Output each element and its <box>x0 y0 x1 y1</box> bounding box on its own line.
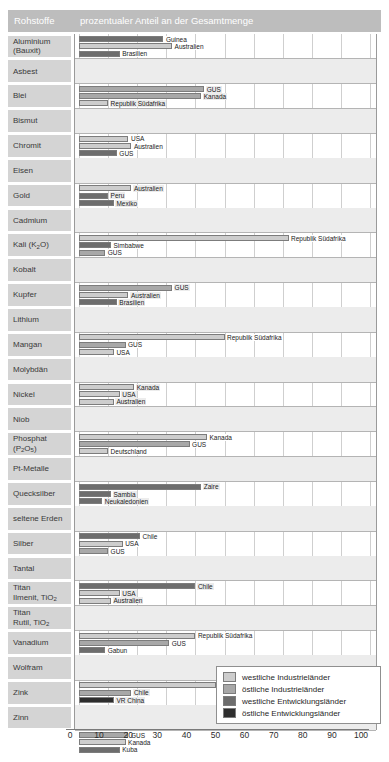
axis-tick: 40 <box>182 730 191 740</box>
material-label: seltene Erden <box>8 508 71 530</box>
chart-row: KanadaUSAAustralien <box>75 208 376 233</box>
material-label-line: Mangan <box>13 340 71 350</box>
material-label-line: Vanadium <box>13 638 71 648</box>
material-label: Gold <box>8 185 71 207</box>
axis-tick: 50 <box>211 730 220 740</box>
chart-page: Rohstoffe prozentualer Anteil an der Ges… <box>0 0 389 762</box>
material-label: Silber <box>8 533 71 555</box>
material-label-line: Asbest <box>13 67 71 77</box>
material-label-line: Tantal <box>13 564 71 574</box>
legend-label: westliche Industrieländer <box>242 673 330 682</box>
plot-area: GuineaAustralienBrasilienGUSKanadaRepubl… <box>74 34 377 730</box>
chart-row: GUSKanadaKuba <box>75 382 376 407</box>
material-label-line: Titan <box>13 608 71 618</box>
chart-row: Republik SüdafrikaGUSUSA <box>75 457 376 482</box>
material-label-line: Bismut <box>13 116 71 126</box>
material-label: Niob <box>8 408 71 430</box>
material-label-line: Pt-Metalle <box>13 464 71 474</box>
material-label: Kali (K2O) <box>8 234 71 256</box>
material-label: Wolfram <box>8 657 71 679</box>
material-label: TitanRutil, TiO2 <box>8 607 71 629</box>
chart-row: AustralienIndienRepublik Südafrika <box>75 606 376 631</box>
chart-row: Republik SüdafrikaGUSGabun <box>75 332 376 357</box>
chart-row: GuineaAustralienBrasilien <box>75 34 376 59</box>
material-label-line: Kali (K2O) <box>13 240 71 251</box>
axis-tick: 30 <box>153 730 162 740</box>
material-label: Zink <box>8 682 71 704</box>
material-label: Vanadium <box>8 632 71 654</box>
material-label-line: Kupfer <box>13 290 71 300</box>
material-label-line: (Bauxit) <box>13 46 71 56</box>
material-label-line: Wolfram <box>13 663 71 673</box>
chart-row: AustralienPeruMexiko <box>75 109 376 134</box>
chart-row: Republik SüdafrikaSimbabweGUS <box>75 133 376 158</box>
material-label: TitanIlmenit, TiO2 <box>8 582 71 604</box>
chart-row: Republik SüdafrikaGUSVR China <box>75 631 376 656</box>
axis-tick: 80 <box>298 730 307 740</box>
material-label-line: Rutil, TiO2 <box>13 618 71 629</box>
material-label: Pt-Metalle <box>8 458 71 480</box>
legend-label: östliche Industrieländer <box>242 685 324 694</box>
axis-tick: 90 <box>327 730 336 740</box>
material-label-line: Nickel <box>13 390 71 400</box>
chart-row: ChileUSAAustralien <box>75 307 376 332</box>
chart-row: GUSAustralienBrasilien <box>75 158 376 183</box>
chart-row: USAAustralienGUS <box>75 84 376 109</box>
legend-item: westliche Industrieländer <box>223 671 380 683</box>
axis-tick: 70 <box>269 730 278 740</box>
axis-tick: 20 <box>123 730 132 740</box>
material-label-line: Phosphat <box>13 434 71 444</box>
material-label-line: Niob <box>13 415 71 425</box>
legend-swatch <box>223 708 236 718</box>
bar <box>79 43 172 49</box>
material-label: Blei <box>8 85 71 107</box>
material-label-line: Zink <box>13 688 71 698</box>
bar <box>79 747 120 753</box>
material-label-line: Zinn <box>13 713 71 723</box>
chart-row: ChileUSAGUS <box>75 283 376 308</box>
bar <box>79 51 120 57</box>
axis-tick: 10 <box>94 730 103 740</box>
chart-row: BrasilienGUSKanada <box>75 407 376 432</box>
material-label-line: Lithium <box>13 315 71 325</box>
chart-grid: Aluminium(Bauxit)AsbestBleiBismutChromit… <box>8 34 381 730</box>
material-label: Mangan <box>8 334 71 356</box>
material-label-column: Aluminium(Bauxit)AsbestBleiBismutChromit… <box>8 34 71 730</box>
axis-tick: 100 <box>354 730 368 740</box>
chart-row: Republik SüdafrikaNorwegenIndien <box>75 581 376 606</box>
legend-label: östliche Entwicklungsländer <box>242 709 340 718</box>
bar-country-label: Brasilien <box>121 50 148 57</box>
material-label: Nickel <box>8 384 71 406</box>
material-label: Zinn <box>8 707 71 729</box>
material-label: Eisen <box>8 160 71 182</box>
material-label: Phosphat(P2O5) <box>8 433 71 455</box>
material-label-line: Gold <box>13 191 71 201</box>
legend: westliche Industrieländeröstliche Indust… <box>216 666 381 724</box>
legend-swatch <box>223 684 236 694</box>
axis-tick: 60 <box>240 730 249 740</box>
material-label-line: Cadmium <box>13 216 71 226</box>
legend-swatch <box>223 672 236 682</box>
material-label-line: Ilmenit, TiO2 <box>13 593 71 604</box>
chart-row: GUSKanadaRepublik Südafrika <box>75 59 376 84</box>
chart-row: ZaireSambiaNeukaledonien <box>75 258 376 283</box>
material-label-line: Eisen <box>13 166 71 176</box>
material-label-line: (P2O5) <box>13 444 71 455</box>
legend-item: östliche Entwicklungsländer <box>223 707 380 719</box>
material-label-line: Titan <box>13 583 71 593</box>
chart-row: SpanienGUSVR China <box>75 481 376 506</box>
material-label: Bismut <box>8 110 71 132</box>
legend-label: westliche Entwicklungsländer <box>242 697 346 706</box>
chart-row: USAChileVR China <box>75 357 376 382</box>
material-label: Molybdän <box>8 359 71 381</box>
table-header: Rohstoffe prozentualer Anteil an der Ges… <box>8 10 381 32</box>
material-label: Aluminium(Bauxit) <box>8 36 71 58</box>
bar-country-label: Australien <box>174 43 205 50</box>
chart-row: MarokkoUSAGUS <box>75 432 376 457</box>
material-label: Tantal <box>8 558 71 580</box>
chart-row: VR ChinaUSAAustralien <box>75 506 376 531</box>
bar <box>79 36 163 42</box>
header-materials: Rohstoffe <box>8 10 77 32</box>
material-label-line: Quecksilber <box>13 489 71 499</box>
bar-country-label: Guinea <box>165 36 188 43</box>
